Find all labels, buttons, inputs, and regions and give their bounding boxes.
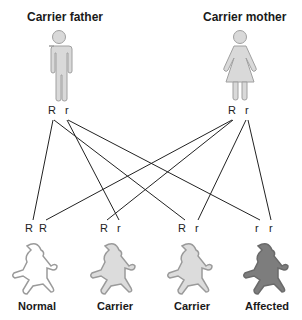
female-figure-icon (224, 31, 257, 101)
child-2-label: Carrier (80, 300, 150, 312)
father-allele-1: R (48, 104, 56, 116)
child-3-allele-1: R (178, 222, 186, 234)
inheritance-lines (33, 120, 271, 220)
mother-allele-2: r (245, 104, 249, 116)
child-3-allele-2: r (195, 222, 199, 234)
child-1-label: Normal (2, 300, 72, 312)
baby-carrier-icon (168, 244, 212, 294)
child-4-allele-2: r (269, 222, 273, 234)
child-1-allele-1: R (25, 222, 33, 234)
child-1-allele-2: R (39, 222, 47, 234)
child-2-allele-2: r (117, 222, 121, 234)
child-4-label: Affected (232, 300, 302, 312)
mother-allele-1: R (228, 104, 236, 116)
child-3-label: Carrier (157, 300, 227, 312)
father-allele-2: r (65, 104, 69, 116)
male-figure-icon (49, 31, 72, 102)
child-4-allele-1: r (255, 222, 259, 234)
baby-normal-icon (13, 244, 57, 294)
inheritance-diagram (0, 0, 302, 320)
baby-affected-icon (244, 244, 288, 294)
baby-carrier-icon (91, 244, 135, 294)
child-2-allele-1: R (100, 222, 108, 234)
